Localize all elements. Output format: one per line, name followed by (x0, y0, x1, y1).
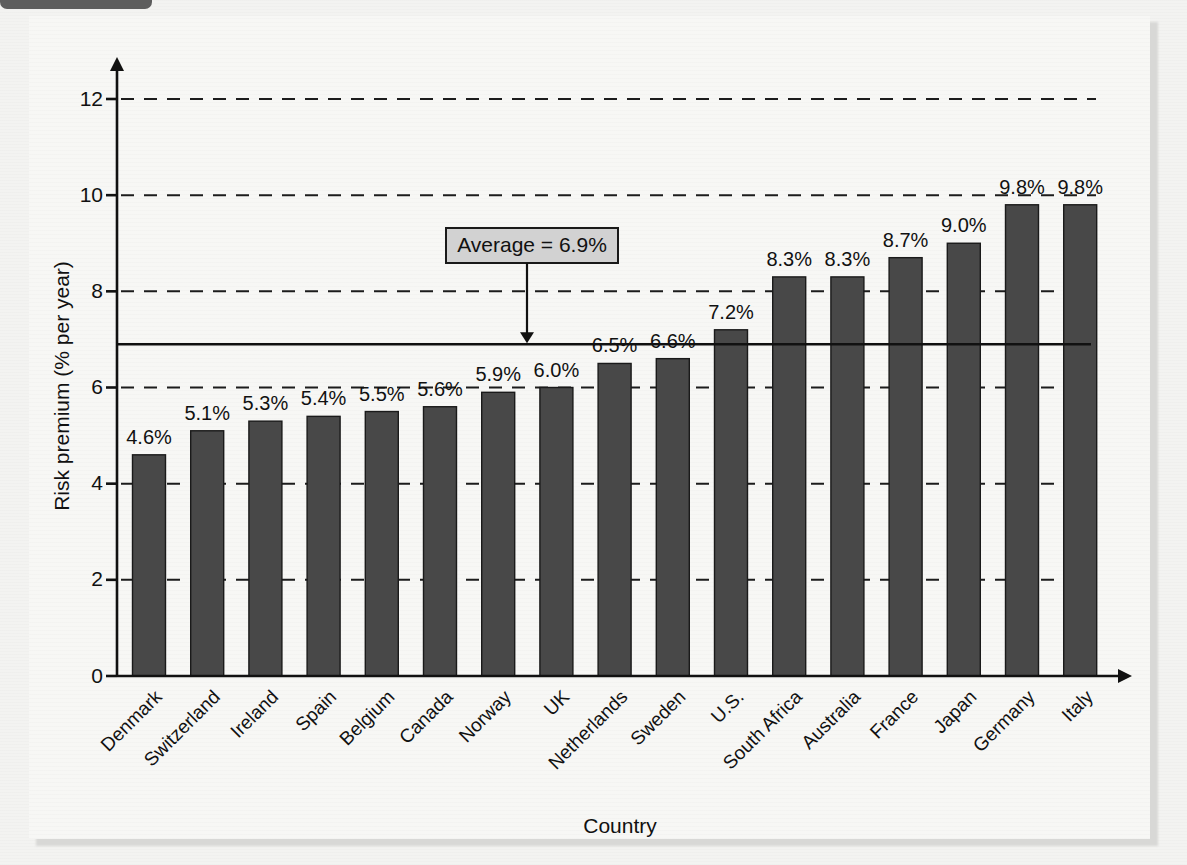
page-tab-stub (0, 0, 152, 9)
figure-panel (29, 16, 1150, 839)
